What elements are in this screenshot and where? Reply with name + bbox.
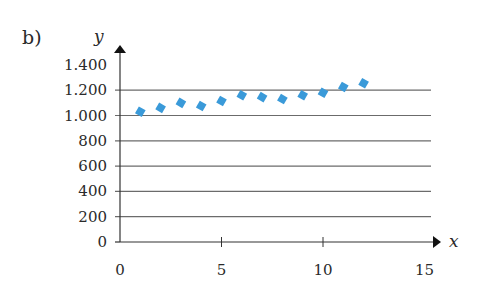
panel-label: b) (22, 26, 42, 48)
x-tick-label: 10 (313, 261, 332, 279)
y-tick-label: 200 (78, 208, 107, 226)
y-tick-label: 1.400 (64, 56, 107, 74)
x-tick-label: 15 (415, 261, 434, 279)
data-point-diamond-icon (134, 105, 147, 118)
y-tick-label: 600 (78, 157, 107, 175)
y-tick-label: 0 (97, 233, 107, 251)
y-axis-label: y (93, 26, 104, 46)
data-point-diamond-icon (357, 77, 370, 90)
data-point-diamond-icon (337, 80, 350, 93)
data-point-diamond-icon (215, 94, 228, 107)
y-tick-label: 1.000 (64, 107, 107, 125)
x-axis-arrow-icon (433, 236, 441, 248)
x-tick-label: 0 (115, 261, 125, 279)
data-point-diamond-icon (154, 101, 167, 114)
data-point-diamond-icon (316, 86, 329, 99)
scatter-chart: b) 02004006008001.0001.2001.400 051015 y… (0, 0, 486, 296)
x-axis-ticks: 051015 (115, 237, 434, 279)
data-point-diamond-icon (276, 92, 289, 105)
y-axis-arrow-icon (114, 45, 126, 53)
y-tick-label: 1.200 (64, 81, 107, 99)
y-tick-label: 400 (78, 182, 107, 200)
data-point-diamond-icon (255, 90, 268, 103)
y-axis-ticks: 02004006008001.0001.2001.400 (64, 56, 120, 251)
y-tick-label: 800 (78, 132, 107, 150)
data-point-diamond-icon (174, 96, 187, 109)
x-tick-label: 5 (217, 261, 227, 279)
data-point-diamond-icon (194, 99, 207, 112)
data-points (134, 77, 371, 119)
x-axis-label: x (449, 231, 459, 251)
